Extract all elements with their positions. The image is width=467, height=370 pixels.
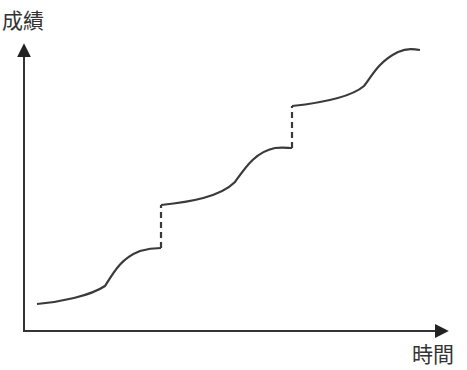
curve-phase-3	[292, 49, 420, 106]
growth-diagram	[0, 0, 467, 370]
curve-phase-1	[37, 248, 161, 304]
curve-phase-2	[161, 148, 292, 205]
